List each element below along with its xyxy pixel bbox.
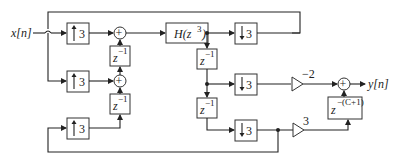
gain-1: −2 <box>292 67 315 91</box>
svg-text:3: 3 <box>79 27 85 41</box>
svg-text:3: 3 <box>246 124 252 138</box>
wire-dr2-down3 <box>207 118 234 130</box>
block-diagram: x[n] 3 + z −1 3 + z <box>0 0 406 162</box>
adder-2: + <box>114 74 126 88</box>
wire-up3-dl2 <box>89 115 120 128</box>
svg-text:−(C+1): −(C+1) <box>337 97 364 107</box>
upsampler-1: 3 <box>67 23 89 44</box>
svg-text:): ) <box>201 27 206 41</box>
svg-text:+: + <box>116 74 123 88</box>
downsampler-1: 3 <box>235 23 257 44</box>
output-label: y[n] <box>367 77 389 91</box>
downsampler-2: 3 <box>235 74 257 95</box>
upsampler-2: 3 <box>67 71 89 92</box>
wire-crossover <box>45 31 51 33</box>
delay-right-1: z −1 <box>197 49 217 69</box>
svg-text:−1: −1 <box>118 94 128 104</box>
upsampler-3: 3 <box>67 118 89 139</box>
svg-text:+: + <box>340 77 347 91</box>
svg-text:−1: −1 <box>118 46 128 56</box>
delay-left-2: z −1 <box>110 94 130 114</box>
svg-text:H(z: H(z <box>173 27 192 41</box>
svg-text:3: 3 <box>303 114 309 128</box>
svg-text:z: z <box>330 103 336 117</box>
delay-output: z −(C+1) <box>328 97 364 119</box>
gain-2: 3 <box>293 114 309 137</box>
svg-text:3: 3 <box>79 122 85 136</box>
svg-text:3: 3 <box>246 27 252 41</box>
svg-text:3: 3 <box>246 78 252 92</box>
svg-text:3: 3 <box>79 75 85 89</box>
svg-text:+: + <box>116 26 123 40</box>
filter-H: H(z 3 ) <box>166 23 208 43</box>
svg-text:−1: −1 <box>205 98 215 108</box>
svg-text:−1: −1 <box>205 49 215 59</box>
wire-gain2-delay <box>304 120 348 130</box>
delay-left-1: z −1 <box>110 46 130 66</box>
adder-output: + <box>338 77 350 91</box>
downsampler-3: 3 <box>235 120 257 141</box>
adder-1: + <box>114 26 126 40</box>
input-label: x[n] <box>10 26 32 40</box>
delay-right-2: z −1 <box>197 98 217 118</box>
wire-to-up2 <box>48 33 66 81</box>
svg-text:−2: −2 <box>302 67 315 81</box>
